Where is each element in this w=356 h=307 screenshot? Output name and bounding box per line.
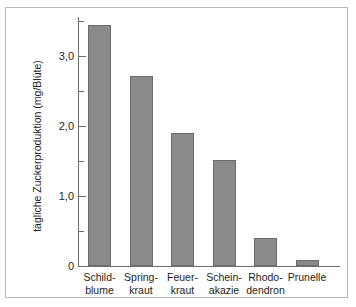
y-tick-major-2 [79,126,86,127]
y-tick-major-0 [79,266,86,267]
bar-rhododendron [254,238,277,266]
figure: tägliche Zuckerproduktion (mg/Blüte) 0 1… [0,0,356,307]
y-tick-minor-2 [79,91,84,92]
bar-schildblume [88,25,111,267]
x-category-label-line: dendron [237,284,295,297]
bar-feuerkraut [171,133,194,266]
x-category-label-line: Prunelle [278,271,336,284]
y-tick-label-1: 1,0 [59,191,74,202]
bar-prunelle [296,260,319,266]
bar-springkraut [130,76,153,266]
y-tick-label-3: 3,0 [59,51,74,62]
y-axis-line [78,17,79,267]
y-tick-minor-1 [79,161,84,162]
y-tick-minor-3 [79,21,84,22]
y-tick-major-1 [79,196,86,197]
y-axis-title: tägliche Zuckerproduktion (mg/Blüte) [31,46,43,246]
y-tick-label-2: 2,0 [59,121,74,132]
bar-scheinakazie [213,160,236,266]
x-category-label: Prunelle [278,271,336,284]
y-tick-major-3 [79,56,86,57]
bar-chart-plot: tägliche Zuckerproduktion (mg/Blüte) 0 1… [0,0,356,307]
y-tick-minor-0 [79,231,84,232]
x-axis-line [78,266,340,267]
